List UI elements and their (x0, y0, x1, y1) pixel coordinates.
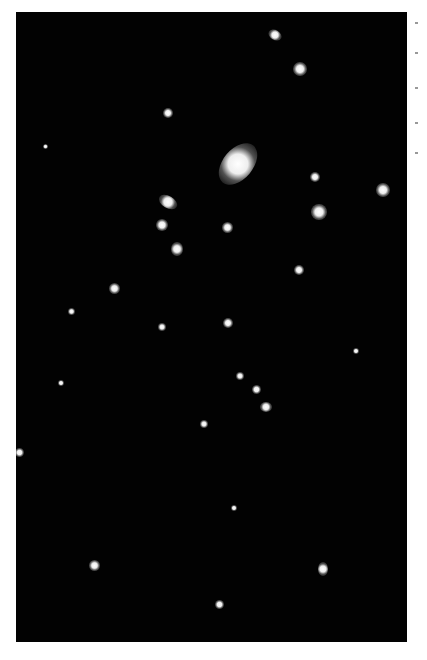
galaxy-source (109, 283, 120, 294)
galaxy-source (215, 600, 224, 609)
galaxy-source (223, 318, 233, 328)
galaxy-source (252, 385, 261, 394)
main-galaxy (211, 136, 265, 192)
galaxy-source (376, 183, 390, 197)
galaxy-source (163, 108, 173, 118)
galaxy-source (318, 562, 328, 576)
galaxy-source (43, 144, 48, 149)
galaxy-source (156, 192, 179, 212)
galaxy-field-image (16, 12, 407, 642)
galaxy-source (310, 172, 320, 182)
galaxy-source (311, 204, 327, 220)
galaxy-source (171, 242, 183, 256)
galaxy-source (260, 402, 272, 412)
galaxy-source (231, 505, 237, 511)
galaxy-source (158, 323, 166, 331)
galaxy-source (222, 222, 233, 233)
galaxy-source (156, 219, 168, 231)
galaxy-source (293, 62, 307, 76)
galaxy-source (68, 308, 75, 315)
galaxy-source (16, 448, 24, 457)
galaxy-source (353, 348, 359, 354)
edge-marks (415, 12, 421, 212)
galaxy-source (89, 560, 100, 571)
galaxy-source (294, 265, 304, 275)
galaxy-source (58, 380, 64, 386)
galaxy-source (200, 420, 208, 428)
galaxy-source (266, 27, 283, 43)
galaxy-source (236, 372, 244, 380)
